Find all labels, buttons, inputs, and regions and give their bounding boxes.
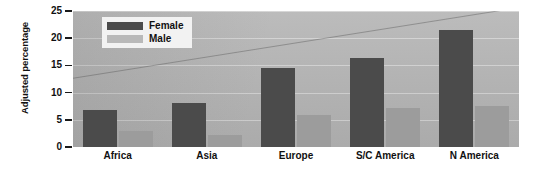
bar-s-c-america-female — [350, 58, 384, 147]
y-tick-label: 5 — [56, 115, 62, 125]
y-tick-10: 10 — [51, 87, 72, 99]
x-label-s-c-america: S/C America — [341, 150, 430, 161]
y-axis-title: Adjusted percentage — [14, 0, 34, 136]
y-tick-mark — [65, 92, 72, 94]
y-tick-label: 0 — [56, 142, 62, 152]
bar-n-america-female — [439, 30, 473, 147]
y-tick-25: 25 — [51, 5, 72, 17]
y-axis: 0510152025 — [40, 0, 72, 176]
legend-label-male: Male — [149, 34, 171, 44]
x-label-europe: Europe — [251, 150, 340, 161]
legend: Female Male — [102, 17, 192, 48]
y-tick-label: 20 — [51, 33, 62, 43]
y-tick-mark — [65, 146, 72, 148]
legend-item-female: Female — [107, 21, 183, 31]
x-label-n-america: N America — [430, 150, 519, 161]
x-label-africa: Africa — [73, 150, 162, 161]
bar-s-c-america-male — [386, 108, 420, 147]
bar-asia-male — [208, 135, 242, 147]
legend-item-male: Male — [107, 34, 183, 44]
bar-n-america-male — [475, 106, 509, 147]
y-tick-mark — [65, 65, 72, 67]
y-tick-0: 0 — [56, 141, 72, 153]
x-label-asia: Asia — [162, 150, 251, 161]
y-tick-5: 5 — [56, 114, 72, 126]
bar-asia-female — [172, 103, 206, 147]
bar-europe-male — [297, 115, 331, 147]
y-tick-label: 10 — [51, 88, 62, 98]
bar-europe-female — [261, 68, 295, 147]
bar-chart: Adjusted percentage 0510152025 Female Ma… — [0, 0, 543, 176]
legend-swatch-female — [107, 22, 143, 30]
y-tick-label: 25 — [51, 6, 62, 16]
x-axis: AfricaAsiaEuropeS/C AmericaN America — [73, 150, 519, 172]
y-tick-mark — [65, 10, 72, 12]
bar-africa-male — [119, 131, 153, 147]
y-tick-15: 15 — [51, 59, 72, 71]
y-tick-20: 20 — [51, 32, 72, 44]
y-tick-mark — [65, 37, 72, 39]
y-tick-mark — [65, 119, 72, 121]
legend-label-female: Female — [149, 21, 183, 31]
plot-area: Female Male — [73, 11, 519, 147]
legend-swatch-male — [107, 35, 143, 43]
y-tick-label: 15 — [51, 60, 62, 70]
bar-africa-female — [83, 110, 117, 147]
